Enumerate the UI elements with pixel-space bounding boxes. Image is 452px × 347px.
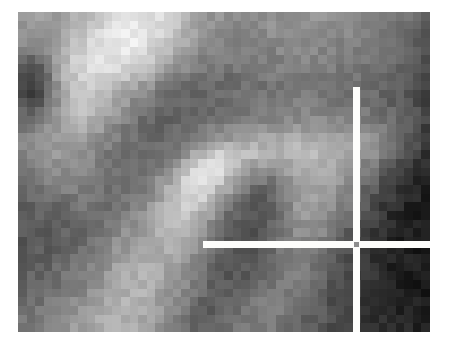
screenshot-viewport — [0, 0, 452, 347]
pixelated-image-frame — [18, 12, 430, 332]
crosshair-center-marker — [354, 242, 359, 247]
pixelated-image-canvas — [18, 12, 430, 332]
